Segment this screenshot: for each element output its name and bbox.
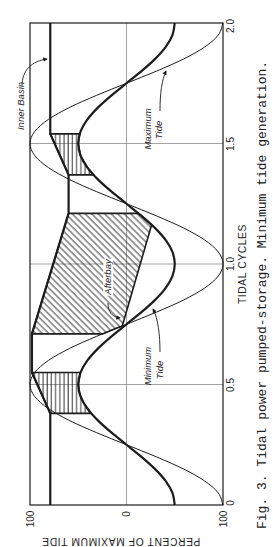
afterbay-label: Afterbay	[103, 258, 113, 295]
x-axis-title: TIDAL CYCLES	[238, 224, 248, 304]
maximum-tide-label-line2: Tide	[154, 121, 164, 139]
minimum-tide-label-line2: Tide	[155, 361, 165, 379]
x-tick-label: 0.5	[226, 378, 236, 392]
y-axis-title: PERCENT OF MAXIMUM TIDE	[42, 536, 201, 546]
x-tick-label: 1.0	[226, 257, 236, 271]
minimum-tide-arrow-icon	[153, 309, 160, 352]
x-tick-label: 1.5	[226, 137, 236, 151]
x-tick-label: 2.0	[226, 19, 236, 33]
y-tick-label: 0	[122, 511, 132, 517]
y-tick-label: 100	[26, 511, 36, 528]
y-tick-label: 100	[219, 511, 229, 528]
x-tick-label: 0	[226, 500, 236, 506]
minimum-tide-label-line1: Minimum	[143, 347, 153, 386]
maximum-tide-label-line1: Maximum	[143, 108, 153, 149]
tidal-chart	[0, 0, 273, 547]
figure-caption: Fig. 3. Tidal power pumped-storage. Mini…	[256, 61, 269, 529]
maximum-tide-arrow-icon	[160, 71, 166, 111]
inner-basin-label: Inner Basin	[16, 82, 26, 130]
